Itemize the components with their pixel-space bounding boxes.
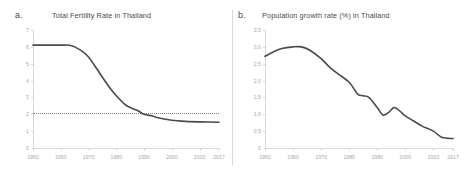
x-tick-mark	[116, 148, 117, 151]
y-tick-label: 5	[26, 61, 29, 67]
x-tick-mark	[144, 148, 145, 151]
x-tick-mark	[219, 148, 220, 151]
x-tick-mark	[293, 148, 294, 151]
x-tick-mark	[89, 148, 90, 151]
x-tick-mark	[265, 148, 266, 151]
x-tick-mark	[61, 148, 62, 151]
y-tick-label: 1.0	[254, 111, 261, 117]
x-tick-label: 1950	[27, 154, 39, 160]
x-tick-label: 1950	[259, 154, 271, 160]
x-tick-label: 1970	[83, 154, 95, 160]
y-tick-label: 7	[26, 27, 29, 33]
x-tick-mark	[433, 148, 434, 151]
x-tick-label: 1980	[111, 154, 123, 160]
x-tick-mark	[200, 148, 201, 151]
x-tick-label: 1960	[287, 154, 299, 160]
panel-b-letter: b.	[238, 10, 246, 20]
x-tick-label: 2000	[400, 154, 412, 160]
y-tick-label: 6	[26, 44, 29, 50]
x-tick-mark	[349, 148, 350, 151]
x-tick-label: 2017	[213, 154, 225, 160]
y-tick-label: 3.0	[254, 44, 261, 50]
x-tick-label: 1990	[371, 154, 383, 160]
y-tick-label: 3	[26, 94, 29, 100]
y-tick-label: 1.5	[254, 94, 261, 100]
figure-two-panel-thailand-demographics: a. Total Fertility Rate in Thailand 7654…	[0, 0, 467, 174]
x-tick-label: 1970	[315, 154, 327, 160]
y-tick-label: 0.5	[254, 128, 261, 134]
panel-b-growth-rate-line	[265, 30, 453, 148]
x-tick-label: 1980	[343, 154, 355, 160]
panel-a-letter: a.	[15, 10, 23, 20]
panel-b-plot-area: 3.53.02.52.01.51.00.50 19501960197019801…	[265, 30, 453, 148]
x-tick-mark	[33, 148, 34, 151]
panel-b-title: Population growth rate (%) in Thailand	[262, 11, 390, 20]
x-tick-label: 1990	[138, 154, 150, 160]
x-tick-label: 2010	[428, 154, 440, 160]
panel-a-title: Total Fertility Rate in Thailand	[52, 11, 151, 20]
panel-a-plot-area: 76543210 1950196019701980199020002010201…	[33, 30, 219, 148]
y-tick-label: 1	[26, 128, 29, 134]
x-tick-label: 2000	[166, 154, 178, 160]
x-tick-mark	[321, 148, 322, 151]
x-tick-mark	[453, 148, 454, 151]
y-tick-label: 2.0	[254, 78, 261, 84]
x-tick-label: 2010	[194, 154, 206, 160]
panel-divider	[232, 10, 233, 166]
y-tick-label: 0	[258, 145, 261, 151]
y-tick-label: 0	[26, 145, 29, 151]
panel-b: b. Population growth rate (%) in Thailan…	[234, 0, 467, 174]
panel-a: a. Total Fertility Rate in Thailand 7654…	[0, 0, 232, 174]
x-tick-mark	[405, 148, 406, 151]
x-tick-label: 2017	[447, 154, 459, 160]
y-tick-label: 4	[26, 78, 29, 84]
panel-a-fertility-line	[33, 30, 219, 148]
x-tick-mark	[172, 148, 173, 151]
y-tick-label: 2.5	[254, 61, 261, 67]
y-tick-label: 2	[26, 111, 29, 117]
x-tick-label: 1960	[55, 154, 67, 160]
x-tick-mark	[377, 148, 378, 151]
y-tick-label: 3.5	[254, 27, 261, 33]
